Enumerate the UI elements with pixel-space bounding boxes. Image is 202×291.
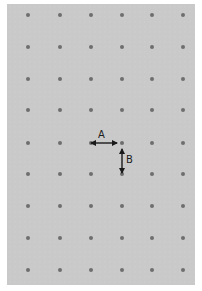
label-b: B (126, 155, 133, 165)
label-a: A (98, 130, 105, 140)
spacing-arrows (0, 0, 202, 291)
